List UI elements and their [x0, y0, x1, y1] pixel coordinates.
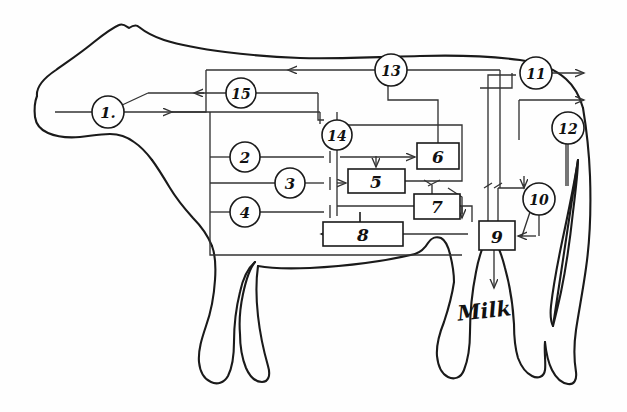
line-9-up-1	[488, 75, 516, 221]
label-box-9: 9	[491, 227, 503, 247]
label-circle-11: 11	[526, 66, 545, 82]
line-15-riser	[318, 93, 324, 120]
label-circle-14: 14	[327, 128, 346, 144]
diagram-canvas: 1. 2 3 4 10 11 12 13 14 15 5 6 7 8 9 Mil…	[0, 0, 627, 412]
line-1-diag	[120, 93, 148, 106]
label-circle-12: 12	[558, 121, 578, 137]
line-10-out	[519, 212, 530, 236]
node-labels: 1. 2 3 4 10 11 12 13 14 15 5 6 7 8 9 Mil…	[100, 63, 578, 326]
label-box-8: 8	[356, 225, 369, 245]
label-circle-10: 10	[529, 192, 549, 208]
cow-flow-diagram-svg: 1. 2 3 4 10 11 12 13 14 15 5 6 7 8 9 Mil…	[0, 0, 627, 412]
label-circle-4: 4	[240, 204, 250, 222]
line-10-in	[498, 184, 524, 188]
cow-outline	[35, 24, 591, 384]
label-box-5: 5	[370, 172, 382, 192]
flow-lines	[55, 70, 584, 288]
label-box-7: 7	[431, 197, 443, 217]
label-circle-13: 13	[381, 63, 401, 79]
trunk-upper	[172, 70, 206, 112]
label-circle-15: 15	[231, 86, 250, 102]
bus-9-up-junction	[484, 183, 502, 188]
line-7-hook	[424, 180, 432, 194]
label-box-6: 6	[432, 147, 444, 167]
label-circle-1: 1.	[100, 104, 116, 122]
label-circle-2: 2	[239, 149, 250, 167]
label-circle-3: 3	[285, 175, 295, 193]
milk-output-label: Milk	[455, 295, 512, 326]
